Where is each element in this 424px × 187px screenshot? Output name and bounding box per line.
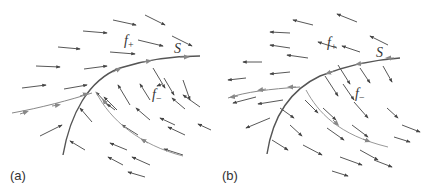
panel-label-b: (b) bbox=[222, 168, 238, 183]
field-arrow bbox=[140, 84, 150, 100]
field-arrow bbox=[58, 47, 80, 49]
field-arrow bbox=[258, 100, 283, 104]
surface-label-a: S bbox=[174, 41, 181, 56]
field-arrow bbox=[198, 124, 211, 130]
surface-s-a bbox=[63, 56, 200, 155]
field-arrow bbox=[303, 145, 322, 155]
field-arrow bbox=[287, 55, 308, 58]
f-minus-label-b: f− bbox=[355, 86, 365, 103]
field-arrow bbox=[360, 68, 370, 83]
f-minus-label-a: f− bbox=[152, 87, 162, 104]
field-arrow bbox=[342, 46, 360, 52]
field-arrow bbox=[64, 85, 87, 89]
surface-label-b: S bbox=[376, 45, 383, 60]
field-arrow bbox=[164, 149, 183, 155]
field-arrow bbox=[343, 84, 354, 100]
field-arrow bbox=[270, 45, 290, 48]
field-arrow bbox=[84, 66, 107, 69]
field-arrow bbox=[233, 97, 256, 103]
field-arrow bbox=[138, 40, 163, 46]
field-arrow bbox=[228, 78, 246, 80]
field-arrow bbox=[387, 108, 398, 118]
panel-b: f+ f− S (b) bbox=[222, 14, 420, 183]
field-arrow bbox=[327, 128, 344, 140]
field-arrow bbox=[332, 171, 348, 176]
field-arrow bbox=[40, 125, 62, 136]
vector-field-a bbox=[22, 15, 211, 177]
trajectory-b-lower bbox=[306, 90, 388, 147]
field-arrow bbox=[340, 157, 362, 165]
field-arrow bbox=[272, 140, 288, 150]
field-arrow bbox=[113, 20, 136, 25]
field-arrow bbox=[110, 52, 135, 54]
field-arrow bbox=[36, 66, 60, 67]
field-arrow bbox=[323, 108, 336, 120]
field-arrow bbox=[370, 36, 388, 45]
field-arrow bbox=[132, 157, 150, 165]
field-arrow bbox=[172, 98, 185, 109]
vector-field-b bbox=[228, 14, 420, 176]
trajectory-b-markers bbox=[232, 87, 368, 141]
field-arrow bbox=[183, 95, 200, 107]
panel-a: f+ f− S (a) bbox=[10, 15, 211, 183]
field-arrow bbox=[136, 108, 150, 120]
field-arrow bbox=[110, 143, 127, 150]
field-arrow bbox=[164, 78, 174, 95]
panel-label-a: (a) bbox=[10, 168, 26, 183]
f-plus-label-b: f+ bbox=[327, 35, 337, 52]
f-plus-label-a: f+ bbox=[124, 33, 134, 50]
trajectory-b-upper bbox=[228, 87, 300, 98]
field-arrow bbox=[80, 108, 92, 122]
field-arrow bbox=[145, 15, 165, 25]
field-arrow bbox=[128, 172, 145, 177]
field-arrow bbox=[402, 125, 420, 132]
field-arrow bbox=[160, 118, 175, 125]
field-arrow bbox=[83, 31, 107, 33]
field-arrow bbox=[394, 137, 410, 142]
field-arrow bbox=[118, 85, 130, 105]
field-arrow bbox=[374, 160, 392, 167]
field-arrow bbox=[108, 157, 123, 165]
field-arrow bbox=[270, 32, 290, 33]
field-arrow bbox=[270, 72, 290, 74]
field-arrow bbox=[290, 125, 302, 136]
discontinuous-vector-field-figure: f+ f− S (a) f+ f− S (b) bbox=[0, 0, 424, 187]
field-arrow bbox=[157, 84, 162, 86]
trajectory-a-markers bbox=[20, 94, 148, 143]
sliding-markers-a bbox=[113, 57, 187, 72]
field-arrow bbox=[325, 76, 338, 96]
field-arrow bbox=[246, 118, 270, 128]
field-arrow bbox=[22, 85, 46, 88]
field-arrow bbox=[70, 141, 85, 150]
field-arrow bbox=[360, 150, 378, 160]
field-arrow bbox=[383, 66, 392, 82]
field-arrow bbox=[337, 14, 357, 22]
field-arrow bbox=[168, 127, 185, 135]
field-arrow bbox=[293, 20, 313, 25]
field-arrow bbox=[305, 100, 318, 113]
field-arrow bbox=[354, 102, 368, 118]
